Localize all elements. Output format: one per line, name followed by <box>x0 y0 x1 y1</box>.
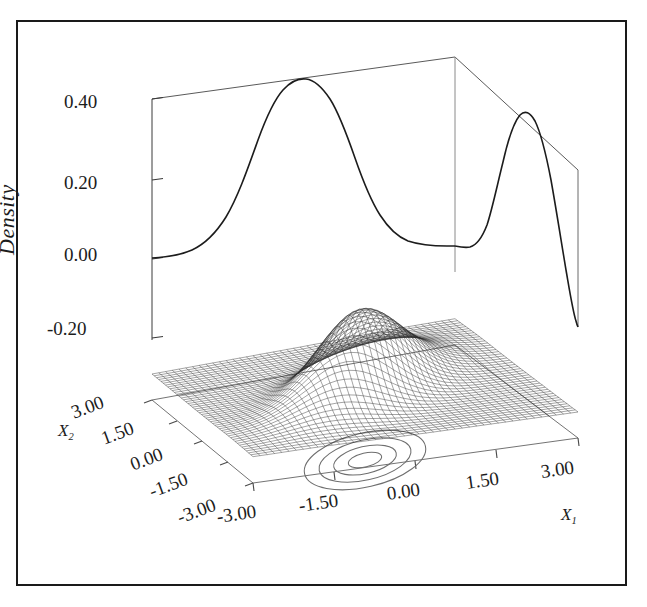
x1-axis-subscript: 1 <box>571 515 576 526</box>
z-tick-2: 0.00 <box>64 244 97 266</box>
x1-axis-title-text: X <box>561 505 571 524</box>
x2-axis-title: X2 <box>58 421 74 442</box>
z-axis-ticks <box>152 98 163 339</box>
marginal-curve-x2 <box>455 112 578 327</box>
marginal-curve-x1 <box>152 79 455 258</box>
x1-tick-4: 3.00 <box>539 456 575 482</box>
x2-axis-subscript: 2 <box>68 431 73 442</box>
z-tick-3: -0.20 <box>47 318 87 340</box>
x1-tick-3: 1.50 <box>464 467 500 493</box>
x1-tick-2: 0.00 <box>385 478 421 504</box>
x1-axis-title: X1 <box>561 505 577 526</box>
z-tick-0: 0.40 <box>64 91 97 113</box>
density-figure: Density 0.40 0.20 0.00 -0.20 X2 3.00 1.5… <box>0 0 647 607</box>
density-surface-mesh <box>152 308 578 456</box>
x2-axis-title-text: X <box>58 421 68 440</box>
z-tick-1: 0.20 <box>64 172 97 194</box>
axis-box <box>152 57 578 340</box>
z-axis-title: Density <box>0 184 20 255</box>
